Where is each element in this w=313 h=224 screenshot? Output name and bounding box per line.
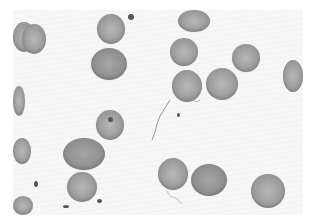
dark-speck <box>34 181 38 187</box>
dark-speck <box>128 14 134 20</box>
dark-speck <box>63 205 69 208</box>
fiber-strands <box>0 0 313 224</box>
dark-speck <box>177 113 180 117</box>
dark-speck <box>97 199 102 203</box>
dark-speck <box>108 117 113 122</box>
micrograph-image <box>0 0 313 224</box>
